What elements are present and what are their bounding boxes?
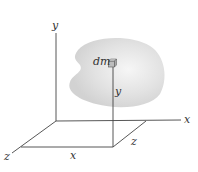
z-axis	[12, 121, 56, 153]
dm-label: dm	[93, 55, 110, 68]
z-distance-line	[113, 121, 146, 147]
diagram-canvas: y dm y x z x z	[0, 0, 198, 172]
x-axis	[56, 120, 181, 121]
z-distance-label: z	[130, 135, 137, 148]
mass-moment-diagram: y dm y x z x z	[0, 0, 198, 172]
y-axis-label: y	[51, 19, 59, 32]
z-axis-label: z	[3, 150, 10, 163]
y-distance-label: y	[114, 85, 122, 98]
x-axis-label: x	[184, 113, 191, 126]
x-distance-label: x	[70, 149, 77, 162]
